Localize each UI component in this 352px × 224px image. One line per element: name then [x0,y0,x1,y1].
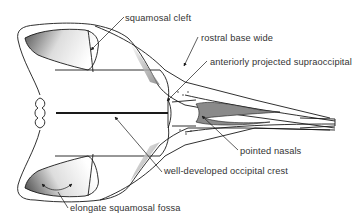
label-anteriorly-projected-supraoccipital: anteriorly projected supraoccipital [210,57,352,67]
label-squamosal-cleft: squamosal cleft [125,13,191,23]
side-shading [130,42,160,85]
label-rostral-base-wide: rostral base wide [201,33,273,43]
label-pointed-nasals: pointed nasals [240,146,301,156]
side-shading-lower [130,142,160,182]
nasal-bones [196,102,280,125]
label-elongate-squamosal-fossa: elongate squamosal fossa [70,203,180,213]
label-well-developed-occipital-crest: well-developed occipital crest [164,166,288,176]
